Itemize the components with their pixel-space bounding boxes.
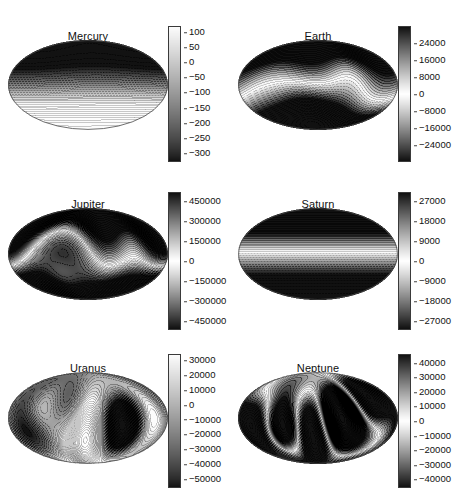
tick-value: −300 (189, 147, 210, 158)
colorbar-gradient-saturn (398, 192, 411, 330)
tick-mark-icon (184, 221, 187, 222)
colorbar-tick-label: −20000 (184, 430, 221, 440)
tick-mark-icon (414, 465, 417, 466)
tick-mark-icon (184, 63, 187, 64)
colorbar-gradient-mercury (168, 26, 181, 162)
tick-mark-icon (184, 479, 187, 480)
colorbar-tick-label: 0 (414, 89, 424, 99)
colorbar-tick-label: −450000 (184, 316, 226, 326)
tick-value: 27000 (419, 195, 445, 206)
tick-mark-icon (414, 60, 417, 61)
colorbar-tick-label: 0 (184, 400, 194, 410)
tick-mark-icon (414, 201, 417, 202)
tick-value: −100 (189, 87, 210, 98)
tick-mark-icon (184, 321, 187, 322)
panel-mercury: Mercury100500−50−100−150−200−250−300 (0, 12, 230, 162)
colorbar-tick-label: −50 (184, 73, 205, 83)
colorbar-tick-label: 30000 (184, 355, 215, 365)
tick-mark-icon (184, 47, 187, 48)
tick-value: −10000 (419, 430, 451, 441)
tick-value: 0 (189, 399, 194, 410)
colorbar-tick-label: 0 (184, 58, 194, 68)
colorbar-tick-label: −150000 (184, 276, 226, 286)
colorbar-tick-label: 20000 (184, 370, 215, 380)
colorbar-tick-label: −30000 (184, 445, 221, 455)
tick-value: 8000 (419, 71, 440, 82)
tick-value: 10000 (189, 384, 215, 395)
colorbar-tick-label: −300000 (184, 296, 226, 306)
tick-value: −30000 (189, 444, 221, 455)
colorbar-tick-label: 27000 (414, 196, 445, 206)
colorbar-tick-label: 100 (184, 27, 205, 37)
tick-mark-icon (184, 202, 187, 203)
tick-mark-icon (184, 375, 187, 376)
tick-value: 20000 (419, 386, 445, 397)
tick-mark-icon (184, 405, 187, 406)
tick-value: −40000 (419, 474, 451, 485)
tick-mark-icon (184, 153, 187, 154)
planetary-magnetic-field-figure: Mercury100500−50−100−150−200−250−300Eart… (0, 0, 460, 496)
tick-value: −10000 (189, 414, 221, 425)
tick-value: −20000 (189, 429, 221, 440)
colorbar-tick-label: 10000 (414, 402, 445, 412)
colorbar-tick-label: −40000 (184, 459, 221, 469)
tick-value: 10000 (419, 401, 445, 412)
tick-mark-icon (184, 93, 187, 94)
colorbar-tick-label: −10000 (414, 431, 451, 441)
map-earth (238, 40, 398, 134)
tick-value: −30000 (419, 459, 451, 470)
tick-mark-icon (414, 281, 417, 282)
tick-mark-icon (184, 435, 187, 436)
colorbar-tick-label: 8000 (414, 72, 440, 82)
colorbar-gradient-uranus (168, 354, 181, 488)
tick-value: 16000 (419, 54, 445, 65)
colorbar-tick-label: −9000 (414, 276, 446, 286)
colorbar-gradient-jupiter (168, 192, 181, 330)
colorbar-tick-label: 300000 (184, 216, 221, 226)
colorbar-gradient-earth (398, 26, 411, 162)
map-uranus (8, 372, 168, 468)
tick-mark-icon (414, 436, 417, 437)
colorbar-tick-label: −8000 (414, 106, 446, 116)
colorbar-tick-label: −27000 (414, 316, 451, 326)
tick-value: −40000 (189, 458, 221, 469)
tick-value: 20000 (189, 369, 215, 380)
tick-mark-icon (414, 479, 417, 480)
tick-mark-icon (414, 241, 417, 242)
tick-value: −150000 (189, 275, 226, 286)
map-mercury (8, 40, 168, 134)
colorbar-saturn: 270001800090000−9000−18000−27000 (398, 192, 460, 330)
colorbar-tick-label: −200 (184, 118, 210, 128)
colorbar-tick-label: 40000 (414, 358, 445, 368)
tick-value: −27000 (419, 315, 451, 326)
tick-mark-icon (414, 301, 417, 302)
tick-value: −50000 (189, 473, 221, 484)
tick-value: 100 (189, 26, 205, 37)
colorbar-tick-label: −18000 (414, 296, 451, 306)
colorbar-tick-label: 24000 (414, 38, 445, 48)
panel-neptune: Neptune400003000020000100000−10000−20000… (230, 346, 460, 496)
colorbar-tick-label: 150000 (184, 236, 221, 246)
tick-mark-icon (184, 464, 187, 465)
tick-value: 450000 (189, 196, 221, 207)
tick-value: −8000 (419, 105, 446, 116)
tick-mark-icon (414, 378, 417, 379)
tick-value: 24000 (419, 37, 445, 48)
tick-mark-icon (414, 261, 417, 262)
tick-mark-icon (414, 77, 417, 78)
colorbar-tick-label: −16000 (414, 123, 451, 133)
tick-value: 30000 (189, 354, 215, 365)
tick-mark-icon (414, 407, 417, 408)
tick-value: 0 (419, 415, 424, 426)
tick-value: 150000 (189, 235, 221, 246)
panel-saturn: Saturn270001800090000−9000−18000−27000 (230, 180, 460, 330)
tick-value: −50 (189, 72, 205, 83)
tick-value: −20000 (419, 444, 451, 455)
colorbar-tick-label: 18000 (414, 216, 445, 226)
colorbar-tick-label: 0 (184, 256, 194, 266)
tick-mark-icon (414, 321, 417, 322)
map-jupiter (8, 208, 168, 304)
tick-mark-icon (184, 360, 187, 361)
tick-mark-icon (184, 281, 187, 282)
tick-mark-icon (414, 421, 417, 422)
